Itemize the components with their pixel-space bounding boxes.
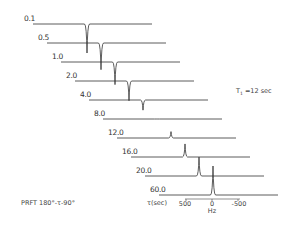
frequency-axis: 500 0 -500 Hz bbox=[179, 199, 247, 215]
frequency-unit-label: Hz bbox=[208, 207, 217, 215]
spectrum-trace bbox=[33, 24, 152, 53]
tau-label: 12.0 bbox=[108, 128, 124, 137]
spectrum-trace bbox=[131, 144, 250, 157]
tau-axis-label: τ(sec) bbox=[147, 199, 167, 207]
tau-labels-group: 0.10.51.02.04.08.012.016.020.060.0 bbox=[24, 14, 166, 194]
tick-label: 500 bbox=[179, 200, 191, 208]
tau-label: 8.0 bbox=[94, 109, 106, 118]
spectrum-trace bbox=[145, 157, 264, 176]
tau-label: 4.0 bbox=[80, 90, 92, 99]
tau-label: 1.0 bbox=[52, 52, 64, 61]
tau-label: 20.0 bbox=[136, 166, 152, 175]
pulse-sequence-label: PRFT 180°-τ-90° bbox=[21, 199, 75, 207]
tau-label: 0.5 bbox=[38, 33, 50, 42]
tick-label: -500 bbox=[232, 200, 247, 208]
tau-label: 2.0 bbox=[66, 71, 78, 80]
spectrum-trace bbox=[89, 100, 208, 110]
spectrum-trace bbox=[117, 132, 236, 138]
spectrum-trace bbox=[75, 81, 194, 101]
tau-label: 16.0 bbox=[122, 147, 138, 156]
spectrum-trace bbox=[47, 43, 166, 70]
tau-label: 0.1 bbox=[24, 14, 36, 23]
tau-label: 60.0 bbox=[150, 185, 166, 194]
traces-group bbox=[33, 24, 278, 195]
spectrum-trace bbox=[159, 166, 278, 195]
t1-annotation: T1 =12 sec bbox=[235, 87, 272, 96]
stacked-spectra-chart: 0.10.51.02.04.08.012.016.020.060.0 T1 =1… bbox=[0, 0, 290, 227]
